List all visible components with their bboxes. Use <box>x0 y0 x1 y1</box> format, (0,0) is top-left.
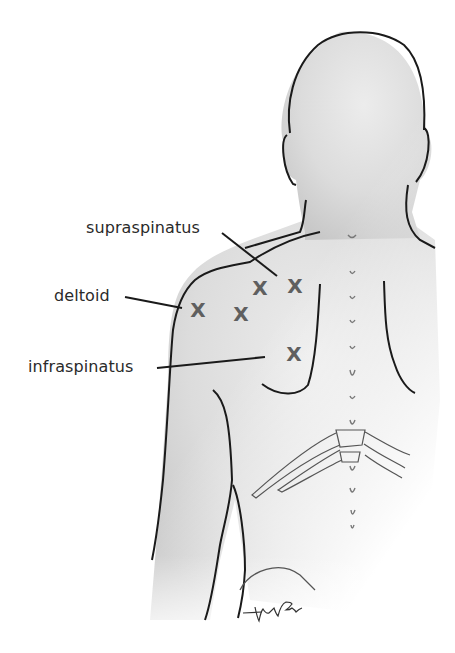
trigger-point-marker-supraspinatus-1: X <box>252 278 267 298</box>
anatomy-illustration: supraspinatus deltoid infraspinatus X X … <box>0 0 455 653</box>
trigger-point-marker-deltoid-2: X <box>233 304 248 324</box>
trigger-point-marker-infraspinatus: X <box>286 344 301 364</box>
trigger-point-marker-supraspinatus-2: X <box>287 276 302 296</box>
label-deltoid: deltoid <box>54 286 110 305</box>
trigger-point-marker-deltoid-1: X <box>190 300 205 320</box>
back-body-drawing <box>0 0 455 653</box>
label-supraspinatus: supraspinatus <box>86 218 200 237</box>
label-infraspinatus: infraspinatus <box>28 357 134 376</box>
